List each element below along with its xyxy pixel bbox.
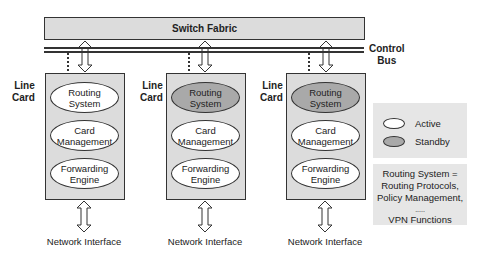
card-management-label-line1: Card (315, 125, 336, 136)
line-card-1-label-line2: Card (12, 92, 35, 104)
routing-system-standby: Routing System (171, 82, 240, 113)
forwarding-engine-active: Forwarding Engine (50, 158, 119, 189)
fabric-card-arrow-1 (78, 41, 92, 72)
routing-system-label-line2: System (69, 98, 101, 109)
card-net-arrow-2 (198, 201, 212, 232)
line-card-3: Routing System Card Management Forwardin… (286, 73, 366, 200)
routing-system-label-line1: Routing (309, 87, 342, 98)
legend-item-active: Active (383, 118, 441, 129)
note-ellipsis: ..... (373, 206, 467, 214)
forwarding-engine-label-line2: Engine (191, 174, 221, 185)
line-card-2-label-line2: Card (140, 92, 163, 104)
card-net-arrow-1 (77, 201, 91, 232)
line-card-1-label: Line Card (12, 80, 35, 104)
line-card-1-label-line1: Line (12, 80, 35, 92)
line-card-3-label: Line Card (260, 80, 283, 104)
card-management-active: Card Management (50, 120, 119, 151)
note-line-5: VPN Functions (373, 214, 467, 226)
forwarding-engine-label-line1: Forwarding (61, 163, 109, 174)
control-bus-label: Control Bus (369, 43, 405, 67)
routing-system-active: Routing System (50, 82, 119, 113)
note-line-1: Routing System = (373, 168, 467, 180)
line-card-2-label-line1: Line (140, 80, 163, 92)
switch-fabric-label: Switch Fabric (172, 23, 237, 34)
card-management-label-line2: Management (298, 136, 353, 147)
legend-item-standby: Standby (383, 136, 450, 147)
line-card-3-label-line2: Card (260, 92, 283, 104)
network-interface-1: Network Interface (29, 236, 139, 247)
legend-active-label: Active (415, 118, 441, 129)
control-bus-line-top (44, 47, 364, 49)
routing-system-note: Routing System = Routing Protocols, Poli… (373, 164, 467, 225)
card-management-active: Card Management (291, 120, 360, 151)
routing-system-label-line1: Routing (189, 87, 222, 98)
fabric-card-arrow-2 (198, 41, 212, 72)
line-card-1: Routing System Card Management Forwardin… (45, 73, 125, 200)
routing-system-label-line1: Routing (68, 87, 101, 98)
card-management-label-line1: Card (195, 125, 216, 136)
forwarding-engine-label-line2: Engine (70, 174, 100, 185)
note-line-3: Policy Management, (373, 192, 467, 204)
line-card-2: Routing System Card Management Forwardin… (166, 73, 246, 200)
forwarding-engine-label-line2: Engine (311, 174, 341, 185)
card-management-label-line2: Management (57, 136, 112, 147)
card-management-label-line1: Card (74, 125, 95, 136)
forwarding-engine-active: Forwarding Engine (171, 158, 240, 189)
forwarding-engine-label-line1: Forwarding (302, 163, 350, 174)
control-bus-label-line1: Control (369, 43, 405, 55)
legend-standby-label: Standby (415, 136, 450, 147)
card-management-active: Card Management (171, 120, 240, 151)
card-net-arrow-3 (318, 201, 332, 232)
control-bus-label-line2: Bus (369, 55, 405, 67)
line-card-2-label: Line Card (140, 80, 163, 104)
routing-system-label-line2: System (310, 98, 342, 109)
network-interface-2: Network Interface (150, 236, 260, 247)
forwarding-engine-active: Forwarding Engine (291, 158, 360, 189)
routing-system-standby: Routing System (291, 82, 360, 113)
routing-system-label-line2: System (190, 98, 222, 109)
card-management-label-line2: Management (178, 136, 233, 147)
legend: Active Standby (373, 103, 467, 158)
standby-swatch-icon (383, 136, 405, 147)
network-interface-3: Network Interface (270, 236, 380, 247)
line-card-3-label-line1: Line (260, 80, 283, 92)
control-bus-line-bottom (44, 51, 364, 53)
switch-fabric: Switch Fabric (44, 17, 365, 40)
fabric-card-arrow-3 (319, 41, 333, 72)
active-swatch-icon (383, 118, 405, 129)
note-line-2: Routing Protocols, (373, 180, 467, 192)
forwarding-engine-label-line1: Forwarding (182, 163, 230, 174)
